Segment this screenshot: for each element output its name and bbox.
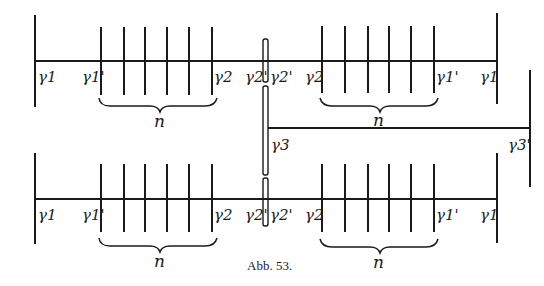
bottom-label-g2p-left: γ2' — [245, 206, 268, 224]
diagram-abb-53: γ1 γ1' γ2 γ2' γ2' γ2 γ1' γ1 n n γ3 γ3' γ… — [0, 0, 544, 286]
top-label-g1-right: γ1 — [480, 68, 499, 86]
top-label-g2-left: γ2 — [214, 68, 233, 86]
branch-label-g3: γ3 — [271, 136, 290, 154]
bottom-label-g2p-right: γ2' — [270, 206, 293, 224]
figure-caption: Abb. 53. — [247, 258, 292, 273]
top-right-tick-group — [322, 26, 434, 93]
top-label-g1p-left: γ1' — [82, 68, 105, 86]
top-left-n-label: n — [154, 111, 165, 131]
top-left-brace — [99, 98, 217, 112]
bottom-left-brace — [99, 238, 217, 252]
bottom-chain — [35, 153, 497, 253]
top-label-g2p-left: γ2' — [245, 68, 268, 86]
top-label-g2-right: γ2 — [305, 68, 324, 86]
bottom-left-n-label: n — [154, 251, 165, 271]
bottom-label-g2-left: γ2 — [214, 206, 233, 224]
bottom-label-g1-left: γ1 — [38, 206, 57, 224]
branch-labels: γ3 γ3' — [271, 136, 531, 154]
top-chain — [35, 13, 497, 112]
top-label-g1p-right: γ1' — [436, 68, 459, 86]
top-label-g1-left: γ1 — [38, 68, 57, 86]
branch — [268, 70, 530, 187]
bottom-label-g1p-left: γ1' — [82, 206, 105, 224]
top-right-n-label: n — [373, 110, 384, 130]
branch-label-g3p: γ3' — [508, 136, 531, 154]
bottom-label-g1-right: γ1 — [480, 206, 499, 224]
bottom-right-n-label: n — [373, 252, 384, 272]
bottom-label-g1p-right: γ1' — [436, 206, 459, 224]
top-label-g2p-right: γ2' — [270, 68, 293, 86]
bottom-right-brace — [320, 239, 438, 253]
bottom-label-g2-right: γ2 — [305, 206, 324, 224]
